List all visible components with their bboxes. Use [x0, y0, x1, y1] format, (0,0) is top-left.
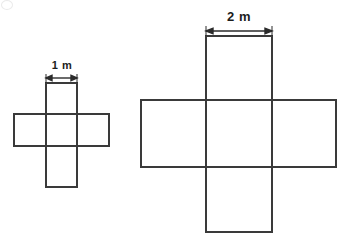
diagram-canvas: 1 m 2 m [0, 0, 346, 246]
large-net-square-right [272, 100, 336, 167]
large-net-dimension-arrow [206, 26, 272, 36]
large-net-dimension-label: 2 m [205, 10, 273, 23]
large-cube-net [0, 0, 346, 246]
large-net-square-bottom [206, 167, 272, 232]
large-net-square-center [206, 100, 272, 167]
large-net-square-top [206, 36, 272, 100]
large-net-square-left [141, 100, 206, 167]
large-net-squares [141, 36, 336, 232]
